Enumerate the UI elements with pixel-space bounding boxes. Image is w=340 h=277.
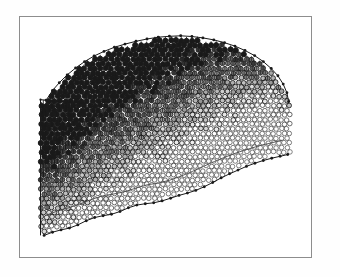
top-ridge-node xyxy=(253,54,256,57)
lattice-marker xyxy=(176,98,181,103)
lattice-marker xyxy=(136,177,141,182)
lattice-marker xyxy=(242,145,247,150)
lattice-marker xyxy=(49,224,54,229)
lattice-marker xyxy=(93,159,98,164)
lattice-marker xyxy=(255,131,260,136)
lattice-marker xyxy=(212,122,217,127)
lattice-marker xyxy=(118,173,123,178)
lattice-marker xyxy=(68,192,73,197)
lattice-marker xyxy=(188,136,193,141)
lattice-marker xyxy=(206,112,211,117)
lattice-marker xyxy=(234,131,239,136)
lattice-marker xyxy=(190,131,195,136)
lattice-marker xyxy=(149,154,154,159)
lattice-marker xyxy=(206,178,211,183)
lattice-marker xyxy=(163,186,168,191)
lattice-marker xyxy=(101,201,106,206)
lattice-marker xyxy=(272,104,277,109)
lattice-marker xyxy=(198,182,203,187)
lattice-marker xyxy=(244,122,249,127)
lattice-marker xyxy=(182,127,187,132)
lattice-marker xyxy=(190,112,195,117)
lattice-marker xyxy=(179,103,184,108)
lattice-marker xyxy=(110,187,115,192)
lattice-marker xyxy=(142,187,147,192)
bottom-edge-node xyxy=(135,204,138,207)
lattice-marker xyxy=(74,211,79,216)
lattice-marker xyxy=(279,118,284,123)
lattice-marker xyxy=(141,168,146,173)
bottom-edge-node xyxy=(68,227,71,230)
lattice-marker xyxy=(74,182,79,187)
lattice-marker xyxy=(260,150,265,155)
lattice-marker xyxy=(277,150,282,155)
lattice-marker xyxy=(153,159,158,164)
top-ridge-node xyxy=(179,34,182,37)
lattice-marker xyxy=(196,149,201,154)
lattice-marker xyxy=(147,177,152,182)
lattice-marker xyxy=(260,131,265,136)
lattice-marker xyxy=(93,205,98,210)
top-ridge-node xyxy=(83,60,86,63)
lattice-marker xyxy=(249,159,254,164)
lattice-marker xyxy=(91,201,96,206)
lattice-marker xyxy=(177,182,182,187)
lattice-marker xyxy=(55,196,60,201)
lattice-marker xyxy=(193,173,198,178)
lattice-marker xyxy=(252,136,257,141)
lattice-marker xyxy=(119,177,124,182)
lattice-marker xyxy=(244,141,249,146)
top-ridge-node xyxy=(58,81,61,84)
lattice-marker xyxy=(112,200,117,205)
lattice-marker xyxy=(66,187,71,192)
lattice-marker xyxy=(204,126,209,131)
lattice-marker xyxy=(222,159,227,164)
lattice-marker xyxy=(130,150,135,155)
bottom-edge-node xyxy=(161,199,164,202)
lattice-marker xyxy=(263,80,268,85)
lattice-marker xyxy=(217,103,222,108)
lattice-marker xyxy=(269,71,274,76)
lattice-marker xyxy=(233,75,238,80)
lattice-marker xyxy=(52,200,57,205)
lattice-marker xyxy=(244,113,249,118)
lattice-marker xyxy=(226,98,231,103)
lattice-marker xyxy=(112,154,117,159)
lattice-marker xyxy=(206,150,211,155)
lattice-marker xyxy=(198,136,203,141)
bottom-edge-node xyxy=(279,155,282,158)
lattice-marker xyxy=(280,126,285,131)
lattice-marker xyxy=(158,178,163,183)
lattice-marker xyxy=(255,94,260,99)
bottom-edge-node xyxy=(51,231,54,234)
lattice-marker xyxy=(271,132,276,137)
lattice-marker xyxy=(236,126,241,131)
lattice-marker xyxy=(160,136,165,141)
lattice-marker xyxy=(285,136,290,141)
lattice-marker xyxy=(128,173,133,178)
lattice-marker xyxy=(101,182,106,187)
bottom-edge-node xyxy=(76,223,79,226)
lattice-marker xyxy=(254,112,259,117)
cut-face-node xyxy=(51,99,53,101)
lattice-marker xyxy=(241,136,246,141)
lattice-marker xyxy=(171,126,176,131)
lattice-marker xyxy=(131,196,136,201)
lattice-marker xyxy=(160,164,165,169)
lattice-marker xyxy=(55,214,60,219)
lattice-marker xyxy=(85,163,90,168)
lattice-marker xyxy=(112,173,117,178)
lattice-marker xyxy=(223,121,228,126)
lattice-marker xyxy=(187,173,192,178)
lattice-marker xyxy=(99,150,104,155)
lattice-marker xyxy=(266,103,271,108)
lattice-marker xyxy=(263,136,268,141)
bottom-edge-node xyxy=(228,172,231,175)
lattice-marker xyxy=(112,164,117,169)
lattice-marker xyxy=(168,140,173,145)
lattice-marker xyxy=(96,191,101,196)
lattice-marker xyxy=(180,122,185,127)
top-ridge-node xyxy=(168,35,171,38)
lattice-marker xyxy=(279,108,284,113)
bottom-edge-node xyxy=(60,228,63,231)
